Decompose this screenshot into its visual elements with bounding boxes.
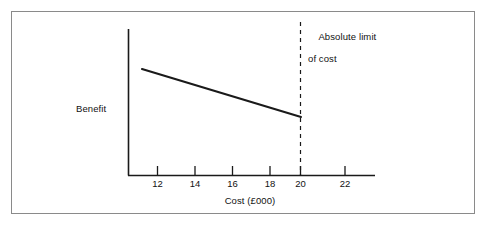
x-tick-label-14: 14	[190, 179, 201, 189]
figure-root: Benefit Cost (£000) Absolute limit of co…	[0, 0, 488, 230]
x-tick-label-22: 22	[340, 179, 351, 189]
y-axis-title: Benefit	[76, 103, 106, 114]
x-tick-label-18: 18	[265, 179, 276, 189]
x-tick-label-12: 12	[152, 179, 163, 189]
absolute-limit-annotation: Absolute limit of cost	[308, 20, 376, 86]
x-axis-title: Cost (£000)	[225, 195, 276, 206]
x-tick-label-20: 20	[295, 179, 306, 189]
x-tick-label-16: 16	[227, 179, 238, 189]
absolute-limit-annotation-line2: of cost	[308, 53, 376, 64]
absolute-limit-annotation-line1: Absolute limit	[318, 31, 376, 42]
benefit-series-line	[142, 69, 301, 117]
x-axis-ticks	[158, 166, 346, 175]
